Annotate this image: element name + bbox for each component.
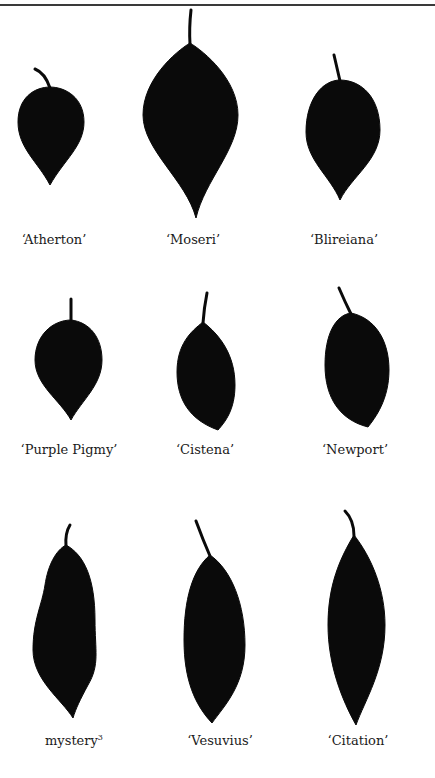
label-newport: ‘Newport’	[322, 442, 388, 458]
leaf-atherton-icon	[18, 69, 84, 185]
leaf-blireiana-icon	[306, 55, 380, 200]
leaf-silhouettes	[0, 0, 435, 778]
label-mystery: mystery3	[45, 733, 103, 749]
leaf-purple-pigmy-icon	[35, 299, 102, 420]
leaf-newport-icon	[325, 288, 389, 427]
leaf-vesuvius-icon	[184, 521, 245, 723]
label-cistena: ‘Cistena’	[176, 442, 234, 458]
leaf-mystery-icon	[33, 525, 96, 718]
label-vesuvius: ‘Vesuvius’	[187, 733, 253, 749]
label-atherton: ‘Atherton’	[22, 232, 87, 248]
label-blireiana: ‘Blireiana’	[310, 232, 378, 248]
leaf-cistena-icon	[177, 293, 235, 430]
leaf-comparison-plate: ‘Atherton’ ‘Moseri’ ‘Blireiana’ ‘Purple …	[0, 0, 435, 778]
footnote-marker: 3	[98, 733, 103, 742]
label-moseri: ‘Moseri’	[166, 232, 220, 248]
leaf-moseri-icon	[143, 10, 238, 218]
label-citation: ‘Citation’	[328, 733, 389, 749]
label-mystery-text: mystery	[45, 733, 98, 748]
leaf-citation-icon	[328, 511, 385, 725]
label-purple-pigmy: ‘Purple Pigmy’	[21, 442, 118, 458]
